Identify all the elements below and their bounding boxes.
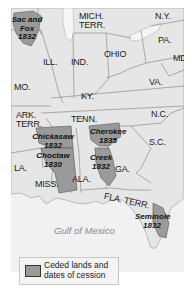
map-legend: Ceded lands anddates of cession (19, 257, 119, 285)
state-label-la: LA. (14, 164, 27, 173)
legend-swatch-ceded (25, 265, 41, 277)
cession-label-sac-and-fox: Sac andFox1832 (11, 16, 43, 42)
cession-year: 1835 (99, 136, 117, 145)
map: MICH.TERR. N.Y. ILL. IND. OHIO PA. MD. M… (11, 8, 184, 272)
state-label-sc: S.C. (149, 138, 166, 147)
state-label-nc: N.C. (151, 110, 168, 119)
state-label-ga: GA. (115, 165, 130, 174)
cession-year: 1832 (92, 162, 110, 171)
cession-year: 1832 (18, 32, 36, 41)
legend-text: Ceded lands anddates of cession (44, 260, 108, 280)
cession-label-creek: Creek1832 (86, 154, 116, 171)
state-label-pa: PA. (158, 36, 171, 45)
cession-year: 1832 (143, 221, 161, 230)
state-label-md: MD. (173, 54, 184, 63)
state-label-va: VA. (149, 78, 162, 87)
state-label-ky: KY. (81, 92, 94, 101)
cession-label-choctaw: Choctaw1830 (33, 152, 73, 169)
state-label-tenn: TENN. (71, 115, 97, 124)
state-label-ill: ILL. (43, 58, 57, 67)
state-label-ala: ALA. (72, 175, 91, 184)
state-label-mo: MO. (14, 83, 30, 92)
legend-line: dates of cession (44, 270, 105, 280)
cession-year: 1832 (44, 141, 62, 150)
state-label-text: TERR. (16, 119, 42, 129)
cession-label-seminole: Seminole1832 (135, 213, 169, 230)
state-label-ohio: OHIO (104, 50, 126, 59)
state-label-ny: N.Y. (155, 12, 171, 21)
state-label-ark-terr: ARK.TERR. (16, 111, 42, 129)
cession-label-cherokee: Cherokee1835 (90, 128, 126, 145)
state-label-mich-terr: MICH.TERR. (79, 12, 105, 30)
state-label-ind: IND. (71, 58, 88, 67)
state-label-text: TERR. (79, 20, 105, 30)
cession-label-chickasaw: Chickasaw1832 (31, 133, 75, 150)
water-label-gulf-of-mexico: Gulf of Mexico (54, 225, 115, 236)
cession-year: 1830 (44, 160, 62, 169)
state-label-miss: MISS. (35, 180, 59, 189)
legend-line: Ceded lands and (44, 260, 108, 270)
